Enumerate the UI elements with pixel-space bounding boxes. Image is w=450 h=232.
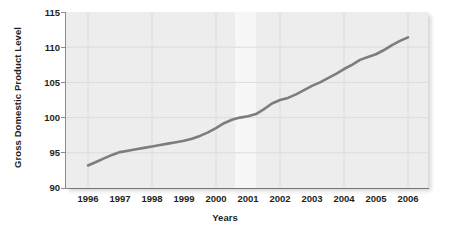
shaded-band-layer	[235, 12, 256, 188]
gdp-line-chart: Gross Domestic Product Level Years 115 1…	[0, 0, 450, 232]
y-axis-title: Gross Domestic Product Level	[12, 18, 23, 178]
y-tick-100: 100	[26, 112, 60, 123]
y-tick-110: 110	[26, 42, 60, 53]
plot-svg	[66, 12, 428, 188]
y-tick-115: 115	[26, 7, 60, 18]
x-tick-2006: 2006	[388, 193, 428, 204]
plot-area	[66, 12, 428, 188]
y-tick-90: 90	[26, 182, 60, 193]
recession-band-2001	[235, 12, 256, 188]
x-axis-line	[65, 188, 429, 189]
x-axis-title: Years	[0, 212, 450, 223]
y-tick-95: 95	[26, 147, 60, 158]
y-tick-105: 105	[26, 77, 60, 88]
